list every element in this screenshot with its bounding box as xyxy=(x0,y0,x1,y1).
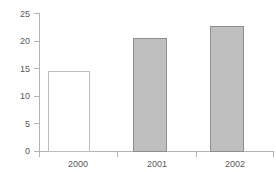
bar-2002 xyxy=(211,26,244,151)
chart-canvas: 25 20 15 10 5 0 2000 2001 2002 xyxy=(0,0,276,172)
y-tick-label-15: 15 xyxy=(20,64,30,74)
y-tick-label-20: 20 xyxy=(20,36,30,46)
x-tick-label-2000: 2000 xyxy=(68,159,88,169)
x-tick-label-2001: 2001 xyxy=(147,159,167,169)
x-tick-label-2002: 2002 xyxy=(225,159,245,169)
y-tick-label-10: 10 xyxy=(20,91,30,101)
bar-2000 xyxy=(49,71,90,151)
y-tick-label-5: 5 xyxy=(25,119,30,129)
bar-2001 xyxy=(134,38,167,151)
y-tick-label-0: 0 xyxy=(25,146,30,156)
bar-chart: 25 20 15 10 5 0 2000 2001 2002 xyxy=(0,0,276,172)
y-tick-label-25: 25 xyxy=(20,9,30,19)
